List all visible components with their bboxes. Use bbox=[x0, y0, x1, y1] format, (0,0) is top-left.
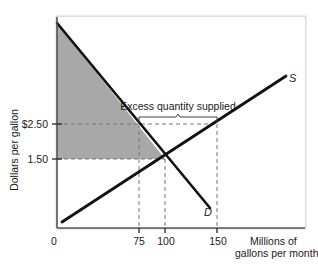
y-tick-label-150: 1.50 bbox=[28, 153, 49, 165]
x-tick-label-75: 75 bbox=[133, 235, 145, 247]
y-axis-title: Dollars per gallon bbox=[8, 109, 20, 191]
x-tick-label-0: 0 bbox=[51, 235, 57, 247]
x-tick-label-100: 100 bbox=[157, 235, 175, 247]
demand-curve-label: D bbox=[204, 206, 212, 218]
x-axis-title-line2: gallons per month bbox=[235, 247, 318, 259]
supply-demand-chart: $2.50 1.50 0 75 100 150 Dollars per gall… bbox=[0, 0, 318, 264]
x-tick-label-150: 150 bbox=[209, 235, 227, 247]
y-tick-label-250: $2.50 bbox=[22, 118, 48, 130]
chart-canvas: $2.50 1.50 0 75 100 150 Dollars per gall… bbox=[0, 0, 318, 264]
excess-quantity-supplied-label: Excess quantity supplied bbox=[120, 100, 236, 112]
x-axis-title-line1: Millions of bbox=[250, 235, 297, 247]
supply-curve-label: S bbox=[289, 72, 297, 84]
